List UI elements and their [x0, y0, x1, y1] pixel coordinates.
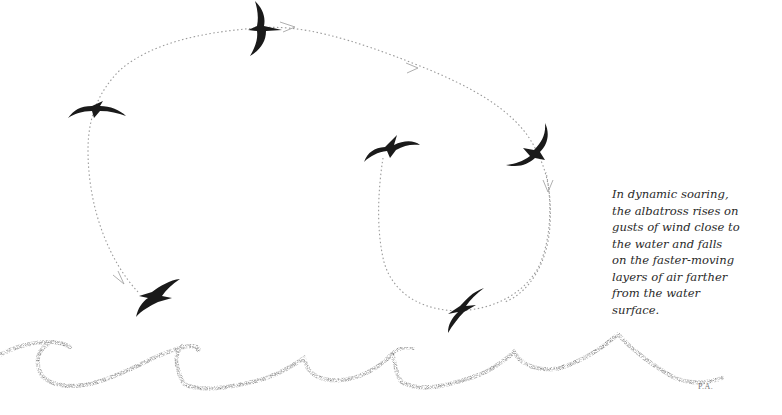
soaring-diagram: In dynamic soaring, the albatross rises … [0, 0, 782, 415]
albatross-top [248, 1, 282, 56]
figure-caption: In dynamic soaring, the albatross rises … [612, 186, 782, 318]
ocean-waves [0, 334, 722, 388]
caption-line: layers of air farther [612, 269, 782, 286]
caption-line: In dynamic soaring, [612, 186, 782, 203]
caption-line: surface. [612, 302, 782, 319]
albatross-lower-left [136, 279, 180, 317]
albatross-middle [364, 135, 420, 162]
flight-path-large-loop [88, 22, 553, 302]
albatross-lower-right [448, 288, 484, 333]
caption-line: from the water [612, 285, 782, 302]
albatross-upper-right [506, 123, 548, 166]
artist-signature: P.A. [698, 382, 713, 391]
caption-line: on the faster-moving [612, 252, 782, 269]
caption-line: the water and falls [612, 236, 782, 253]
caption-line: gusts of wind close to [612, 219, 782, 236]
flight-path-small-loop [379, 158, 550, 311]
caption-line: the albatross rises on [612, 203, 782, 220]
